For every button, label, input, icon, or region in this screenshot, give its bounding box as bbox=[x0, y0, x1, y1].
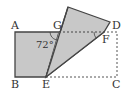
label-c: C bbox=[112, 78, 120, 91]
label-d: D bbox=[112, 19, 121, 32]
label-g: G bbox=[53, 19, 62, 32]
label-b: B bbox=[11, 78, 19, 91]
label-a: A bbox=[10, 19, 20, 32]
label-e: E bbox=[42, 78, 50, 91]
angle-label: 72° bbox=[36, 39, 54, 50]
geometry-diagram: A B C D E F G 72° bbox=[0, 0, 128, 96]
label-f: F bbox=[102, 33, 110, 46]
